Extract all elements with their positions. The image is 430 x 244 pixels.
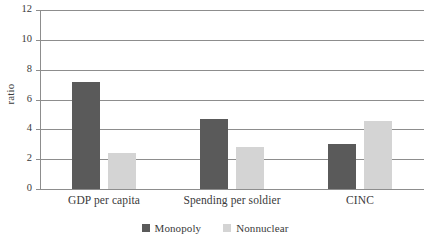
gridline-0 xyxy=(40,189,424,190)
bar-monopoly-0 xyxy=(72,82,100,189)
y-tick-mark-12 xyxy=(36,10,40,11)
y-tick-label-4: 4 xyxy=(10,123,32,134)
legend: MonopolyNonnuclear xyxy=(0,222,430,234)
y-tick-label-6: 6 xyxy=(10,94,32,105)
y-tick-mark-2 xyxy=(36,159,40,160)
bar-monopoly-2 xyxy=(328,144,356,189)
legend-item-nonnuclear[interactable]: Nonnuclear xyxy=(223,222,288,234)
y-tick-mark-4 xyxy=(36,129,40,130)
bar-nonnuclear-0 xyxy=(108,153,136,189)
y-tick-mark-0 xyxy=(36,189,40,190)
gridline-10 xyxy=(40,40,424,41)
bar-monopoly-1 xyxy=(200,119,228,189)
legend-swatch-icon-monopoly xyxy=(142,224,150,232)
bar-nonnuclear-2 xyxy=(364,121,392,189)
y-tick-label-0: 0 xyxy=(10,183,32,194)
y-tick-mark-10 xyxy=(36,40,40,41)
legend-label-nonnuclear: Nonnuclear xyxy=(236,222,288,234)
gridline-8 xyxy=(40,70,424,71)
plot-area: 024681012 xyxy=(40,10,424,189)
y-tick-label-12: 12 xyxy=(10,4,32,15)
legend-swatch-icon-nonnuclear xyxy=(223,224,231,232)
y-tick-label-8: 8 xyxy=(10,64,32,75)
bar-nonnuclear-1 xyxy=(236,147,264,190)
gridline-12 xyxy=(40,10,424,11)
legend-label-monopoly: Monopoly xyxy=(155,222,202,234)
legend-item-monopoly[interactable]: Monopoly xyxy=(142,222,202,234)
bar-chart-figure: ratio 024681012 GDP per capitaSpending p… xyxy=(0,0,430,244)
y-tick-label-2: 2 xyxy=(10,153,32,164)
y-tick-mark-8 xyxy=(36,70,40,71)
y-tick-mark-6 xyxy=(36,100,40,101)
x-axis-label-2: CINC xyxy=(260,194,430,206)
y-tick-label-10: 10 xyxy=(10,34,32,45)
